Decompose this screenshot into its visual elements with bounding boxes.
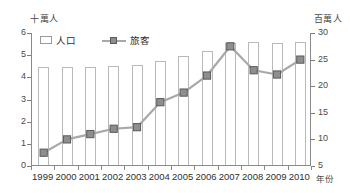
plot-area	[31, 33, 311, 166]
line-swatch-icon	[102, 36, 126, 44]
right-tick-label: 5	[318, 161, 338, 170]
line-marker	[87, 130, 94, 137]
left-tick-label: 2	[10, 117, 26, 126]
x-tick-mark	[124, 166, 125, 170]
line-marker	[180, 89, 187, 96]
x-tick-mark	[54, 166, 55, 170]
chart-container: 十萬人 百萬人 0123456 51015202530 199920002001…	[0, 0, 350, 193]
line-marker	[273, 71, 280, 78]
x-tick-mark	[218, 166, 219, 170]
bar-swatch-icon	[40, 36, 52, 44]
left-tick-label: 3	[10, 95, 26, 104]
right-axis-unit-label: 百萬人	[314, 12, 343, 25]
line-marker	[227, 43, 234, 50]
line-marker	[297, 56, 304, 63]
x-tick-mark	[78, 166, 79, 170]
legend-label-population: 人口	[56, 33, 76, 47]
x-tick-mark	[101, 166, 102, 170]
legend-item-population: 人口	[40, 33, 76, 47]
x-tick-mark	[194, 166, 195, 170]
right-tick-label: 10	[318, 134, 338, 143]
left-tick-label: 1	[10, 139, 26, 148]
x-tick-mark	[31, 166, 32, 170]
x-tick-label: 2010	[284, 171, 314, 182]
left-axis-unit-label: 十萬人	[30, 12, 59, 25]
legend-item-passengers: 旅客	[102, 33, 150, 47]
left-tick-label: 6	[10, 28, 26, 37]
line-marker	[63, 136, 70, 143]
line-marker	[157, 99, 164, 106]
x-tick-mark	[148, 166, 149, 170]
x-tick-mark	[171, 166, 172, 170]
left-tick-label: 5	[10, 50, 26, 59]
right-tick-label: 20	[318, 81, 338, 90]
chart-legend: 人口 旅客	[40, 33, 150, 47]
x-axis-title: 年份	[316, 172, 334, 184]
right-tick-label: 30	[318, 28, 338, 37]
legend-label-passengers: 旅客	[130, 33, 150, 47]
x-tick-mark	[264, 166, 265, 170]
line-marker	[250, 67, 257, 74]
line-marker	[110, 125, 117, 132]
x-tick-mark	[311, 166, 312, 170]
left-tick-label: 4	[10, 72, 26, 81]
x-tick-mark	[241, 166, 242, 170]
right-tick-label: 25	[318, 55, 338, 64]
line-marker	[133, 124, 140, 131]
x-tick-mark	[288, 166, 289, 170]
line-marker	[203, 72, 210, 79]
left-tick-label: 0	[10, 161, 26, 170]
line-marker	[40, 149, 47, 156]
right-tick-label: 15	[318, 108, 338, 117]
line-series-passengers	[32, 33, 312, 166]
